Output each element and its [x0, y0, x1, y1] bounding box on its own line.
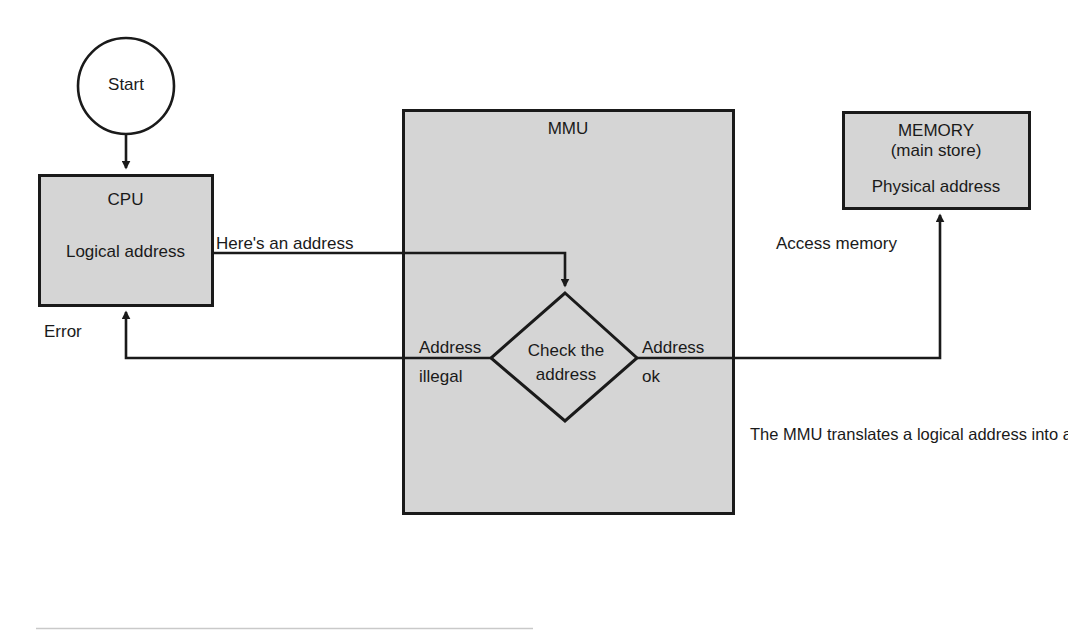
start-label: Start [78, 74, 174, 96]
edge-label-access-memory: Access memory [776, 233, 897, 255]
mmu-title: MMU [403, 118, 733, 140]
decision-label-line1: Check the [495, 340, 637, 362]
decision-label-line2: address [495, 364, 637, 386]
memory-subtitle-physical-address: Physical address [843, 176, 1029, 198]
memory-subtitle-main-store: (main store) [843, 140, 1029, 162]
cpu-subtitle: Logical address [39, 241, 212, 263]
branch-label-address-illegal-line1: Address [419, 337, 481, 359]
branch-label-address-ok-line2: ok [642, 366, 660, 388]
flowchart-graphics [0, 0, 1068, 640]
memory-title: MEMORY [843, 120, 1029, 142]
diagram-canvas: Start CPU Logical address MMU MEMORY (ma… [0, 0, 1068, 640]
edge-label-heres-an-address: Here's an address [216, 233, 353, 255]
branch-label-address-illegal-line2: illegal [419, 366, 462, 388]
cpu-title: CPU [39, 189, 212, 211]
explanatory-note: The MMU translates a logical address int… [750, 422, 980, 447]
branch-label-address-ok-line1: Address [642, 337, 704, 359]
edge-label-error: Error [44, 321, 82, 343]
